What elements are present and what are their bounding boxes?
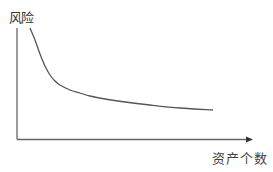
risk-curve bbox=[30, 28, 213, 110]
chart-canvas bbox=[0, 0, 273, 172]
x-axis-label: 资产个数 bbox=[212, 148, 268, 167]
x-axis-arrow-icon bbox=[246, 137, 253, 143]
y-axis-label: 风险 bbox=[9, 7, 33, 26]
risk-vs-assets-chart: 风险 资产个数 bbox=[0, 0, 273, 172]
